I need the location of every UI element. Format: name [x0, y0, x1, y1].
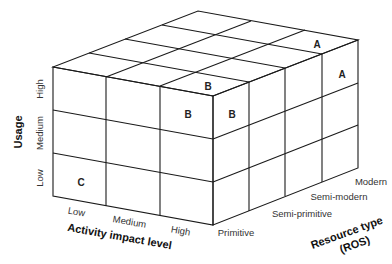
activity-tick-medium: Medium [112, 213, 147, 230]
cube-diagram: C B B B A A Low Medium High Usage Low Me… [0, 0, 392, 264]
resource-tick-modern: Modern [355, 176, 387, 187]
resource-tick-semi-primitive: Semi-primitive [272, 208, 332, 219]
resource-tick-semi-modern: Semi-modern [310, 191, 367, 202]
cell-label-a-top: A [313, 39, 320, 50]
usage-tick-low: Low [34, 169, 45, 187]
cell-labels: C B B B A A [77, 39, 345, 188]
usage-tick-high: High [34, 79, 45, 99]
top-activity-divider [160, 30, 305, 86]
top-activity-divider [106, 21, 251, 77]
front-face [53, 67, 213, 225]
cell-label-c: C [77, 177, 84, 188]
cell-label-b-top: B [204, 81, 211, 92]
usage-tick-medium: Medium [34, 116, 45, 150]
activity-axis: Low Medium High Activity impact level [67, 205, 192, 252]
cell-label-a-right: A [338, 69, 345, 80]
cell-label-b-right: B [228, 109, 235, 120]
resource-axis: Primitive Semi-primitive Semi-modern Mod… [218, 176, 387, 255]
usage-axis: Low Medium High Usage [12, 79, 45, 186]
resource-tick-primitive: Primitive [218, 227, 254, 238]
usage-axis-title: Usage [12, 115, 24, 148]
cell-label-b-front: B [184, 109, 191, 120]
activity-tick-low: Low [67, 205, 86, 219]
activity-axis-title: Activity impact level [67, 221, 173, 251]
activity-tick-high: High [170, 223, 191, 237]
front-face-outline [53, 67, 213, 225]
